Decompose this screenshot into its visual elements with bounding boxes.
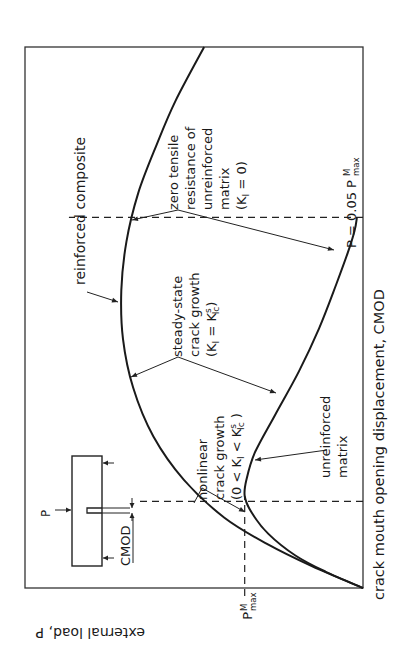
svg-text:(KI = KsIc): (KI = KsIc) [203,302,221,357]
svg-text:matrix: matrix [217,167,232,210]
pmax-tick-label: P M max [239,592,258,619]
svg-text:zero tensile: zero tensile [166,135,181,210]
inset-cmod-label: CMOD [118,525,133,566]
annotation-p-005: P = 0.05 P M max [342,157,361,248]
annotation-nonlinear: nonlinear crack growth (0 < KI < KsIc ) [195,413,246,500]
svg-text:(KI = 0): (KI = 0) [234,161,251,210]
unreinforced-matrix-curve [244,217,363,588]
svg-text:unreinforced: unreinforced [318,396,333,478]
svg-text:crack growth: crack growth [212,416,227,501]
arrowhead-icon [131,372,137,377]
annotation-reinforced-composite: reinforced composite [72,137,88,285]
annotation-steady-state: steady-state crack growth (KI = KsIc) [170,273,221,358]
svg-text:steady-state: steady-state [170,276,185,357]
svg-text:(0 < KI < KsIc ): (0 < KI < KsIc ) [228,413,246,500]
specimen-notch [87,508,102,513]
svg-text:max: max [248,592,258,611]
arrowhead-icon [255,457,261,462]
leader-line [178,210,334,250]
y-axis-label: external load, P [36,625,145,641]
arrowhead-icon [270,389,276,394]
annotation-unreinforced-matrix: unreinforced matrix [318,396,350,478]
arrowhead-icon [112,298,118,303]
leader-line [132,210,178,220]
leader-line [131,357,178,377]
reinforced-composite-curve [121,47,363,588]
svg-text:P: P [240,612,255,620]
svg-text:crack growth: crack growth [187,273,202,358]
svg-text:P = 0.05 P: P = 0.05 P [344,180,359,248]
svg-text:max: max [351,157,361,176]
leader-line [255,450,327,460]
crack-growth-diagram: crack mouth opening displacement, CMOD e… [0,0,406,670]
svg-text:unreinforced: unreinforced [200,128,215,210]
annotation-zero-tensile: zero tensile resistance of unreinforced … [166,126,251,210]
x-axis-label: crack mouth opening displacement, CMOD [371,289,387,600]
svg-text:matrix: matrix [335,435,350,478]
specimen-inset: P CMOD [39,456,135,566]
arrowhead-icon [239,507,245,512]
leader-line [178,357,276,393]
inset-load-label: P [39,510,53,517]
svg-text:resistance of: resistance of [183,126,198,210]
